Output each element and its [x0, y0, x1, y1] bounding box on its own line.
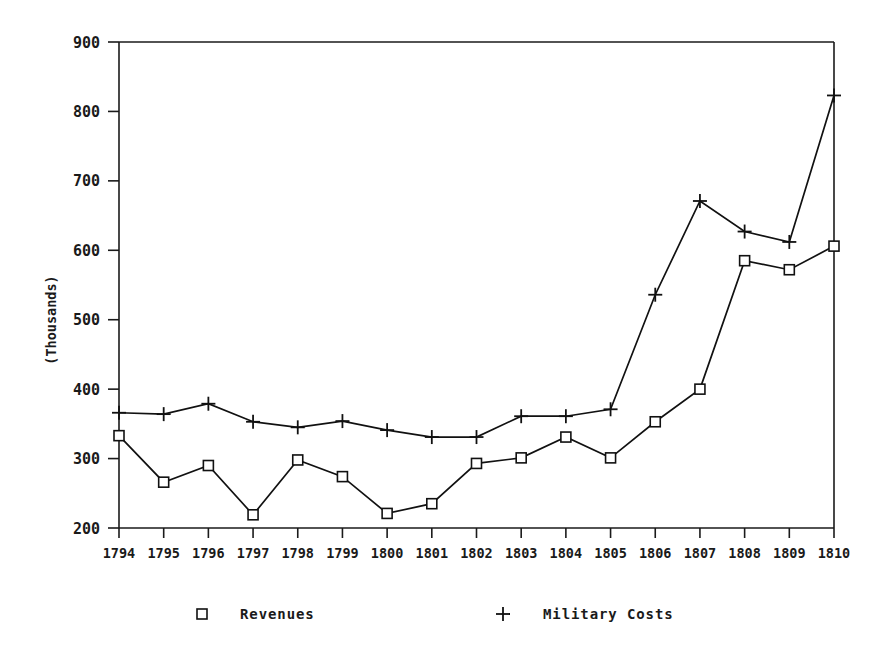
- y-axis-tick-label: 400: [73, 381, 100, 399]
- legend-item[interactable]: Military Costs: [496, 606, 674, 622]
- series-group: [112, 88, 841, 519]
- data-point-marker: [293, 455, 303, 465]
- x-axis-tick-label: 1803: [505, 545, 538, 561]
- x-axis-tick-label: 1804: [550, 545, 583, 561]
- data-point-marker: [606, 453, 616, 463]
- data-point-marker: [561, 432, 571, 442]
- line-chart: 200300400500600700800900 179417951796179…: [0, 0, 890, 652]
- y-axis-tick-label: 800: [73, 103, 100, 121]
- x-axis-tick-label: 1797: [237, 545, 270, 561]
- data-point-marker: [784, 265, 794, 275]
- x-axis-tick-label: 1796: [192, 545, 225, 561]
- x-axis-tick-label: 1810: [818, 545, 851, 561]
- data-point-marker: [159, 477, 169, 487]
- series-military-costs: [112, 88, 841, 444]
- legend-item[interactable]: Revenues: [197, 606, 315, 622]
- x-axis-tick-label: 1805: [594, 545, 627, 561]
- legend-label: Revenues: [240, 606, 315, 622]
- y-axis-title: (Thousands): [43, 275, 59, 364]
- data-point-marker: [337, 472, 347, 482]
- legend-label: Military Costs: [543, 606, 674, 622]
- data-point-marker: [427, 499, 437, 509]
- y-axis-tick-label: 300: [73, 450, 100, 468]
- x-axis-tick-label: 1806: [639, 545, 672, 561]
- data-point-marker: [695, 384, 705, 394]
- x-axis-tick-label: 1807: [684, 545, 717, 561]
- y-axis-tick-group: 200300400500600700800900: [73, 34, 119, 538]
- legend-square-marker-icon: [197, 609, 207, 619]
- data-point-marker: [650, 417, 660, 427]
- x-axis-tick-label: 1799: [326, 545, 359, 561]
- series-revenues: [114, 241, 839, 520]
- data-point-marker: [382, 508, 392, 518]
- x-axis-tick-label: 1809: [773, 545, 806, 561]
- y-axis-tick-label: 600: [73, 242, 100, 260]
- data-point-marker: [516, 453, 526, 463]
- chart-legend: RevenuesMilitary Costs: [197, 606, 674, 622]
- x-axis-tick-label: 1802: [460, 545, 493, 561]
- y-axis-tick-label: 700: [73, 172, 100, 190]
- data-point-marker: [248, 510, 258, 520]
- x-axis-tick-label: 1794: [103, 545, 136, 561]
- data-point-marker: [829, 241, 839, 251]
- x-axis-tick-label: 1798: [281, 545, 314, 561]
- data-point-marker: [740, 256, 750, 266]
- series-polyline: [119, 95, 834, 437]
- y-axis-tick-label: 200: [73, 520, 100, 538]
- data-point-marker: [472, 458, 482, 468]
- series-polyline: [119, 246, 834, 515]
- y-axis-tick-label: 500: [73, 311, 100, 329]
- x-axis-tick-label: 1808: [728, 545, 761, 561]
- axis-frame: [119, 42, 834, 528]
- chart-canvas: 200300400500600700800900 179417951796179…: [0, 0, 890, 652]
- x-axis-tick-label: 1795: [147, 545, 180, 561]
- data-point-marker: [114, 431, 124, 441]
- x-axis-tick-group: 1794179517961797179817991800180118021803…: [103, 528, 851, 561]
- x-axis-tick-label: 1800: [371, 545, 404, 561]
- data-point-marker: [203, 461, 213, 471]
- x-axis-tick-label: 1801: [416, 545, 449, 561]
- y-axis-tick-label: 900: [73, 34, 100, 52]
